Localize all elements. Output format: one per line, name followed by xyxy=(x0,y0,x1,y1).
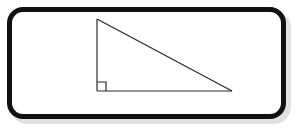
triangle-outline xyxy=(97,19,232,91)
right-angle-marker-icon xyxy=(97,82,106,91)
triangle-diagram xyxy=(0,0,300,132)
figure-canvas: F O R S H O R TER SIDES SUBTRACT xyxy=(0,0,300,132)
triangle-hypotenuse xyxy=(97,19,232,91)
